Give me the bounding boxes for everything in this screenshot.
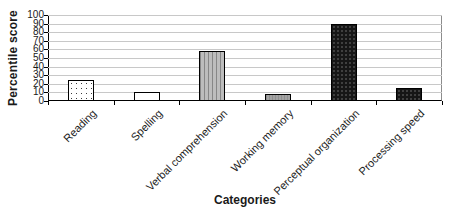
x-tick-mark-2 bbox=[179, 101, 180, 105]
y-tick-label-100: 100 bbox=[14, 10, 44, 20]
y-tick-mark-100 bbox=[44, 15, 48, 16]
bar-working-memory bbox=[265, 94, 291, 101]
y-tick-label-90: 90 bbox=[14, 19, 44, 29]
bar-perceptual-organization bbox=[331, 24, 357, 101]
y-tick-mark-40 bbox=[44, 67, 48, 68]
x-tick-mark-3 bbox=[245, 101, 246, 105]
x-tick-mark-6 bbox=[442, 101, 443, 105]
y-tick-mark-60 bbox=[44, 49, 48, 50]
y-tick-label-70: 70 bbox=[14, 36, 44, 46]
y-tick-mark-30 bbox=[44, 75, 48, 76]
gridline-60 bbox=[48, 49, 442, 50]
gridline-70 bbox=[48, 41, 442, 42]
y-tick-mark-90 bbox=[44, 24, 48, 25]
gridline-20 bbox=[48, 84, 442, 85]
y-tick-label-40: 40 bbox=[14, 62, 44, 72]
gridline-50 bbox=[48, 58, 442, 59]
x-tick-mark-0 bbox=[48, 101, 49, 105]
y-tick-mark-10 bbox=[44, 92, 48, 93]
x-tick-mark-4 bbox=[311, 101, 312, 105]
y-tick-label-60: 60 bbox=[14, 44, 44, 54]
bar-verbal-comprehension bbox=[199, 51, 225, 101]
y-tick-label-0: 0 bbox=[14, 96, 44, 106]
bar-spelling bbox=[134, 92, 160, 101]
x-tick-mark-5 bbox=[376, 101, 377, 105]
gridline-80 bbox=[48, 32, 442, 33]
gridline-90 bbox=[48, 24, 442, 25]
gridline-10 bbox=[48, 92, 442, 93]
gridline-40 bbox=[48, 67, 442, 68]
x-axis-title: Categories bbox=[48, 193, 442, 207]
bar-processing-speed bbox=[396, 88, 422, 101]
y-tick-label-80: 80 bbox=[14, 27, 44, 37]
y-tick-mark-70 bbox=[44, 41, 48, 42]
y-tick-mark-20 bbox=[44, 84, 48, 85]
x-tick-mark-1 bbox=[114, 101, 115, 105]
gridline-100 bbox=[48, 15, 442, 16]
y-tick-label-10: 10 bbox=[14, 87, 44, 97]
y-tick-label-20: 20 bbox=[14, 79, 44, 89]
y-tick-label-50: 50 bbox=[14, 53, 44, 63]
gridline-30 bbox=[48, 75, 442, 76]
bar-reading bbox=[68, 80, 94, 102]
y-tick-mark-80 bbox=[44, 32, 48, 33]
y-tick-label-30: 30 bbox=[14, 70, 44, 80]
y-tick-mark-50 bbox=[44, 58, 48, 59]
percentile-bar-chart: Percentile score Categories 010203040506… bbox=[0, 0, 449, 219]
